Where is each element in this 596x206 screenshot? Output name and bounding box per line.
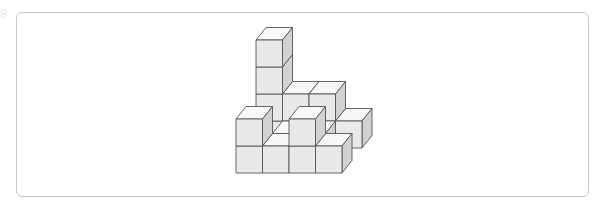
cube-front-face [256,40,283,67]
cube-front-face [289,119,316,146]
cube-front-face [263,146,290,173]
cube-front-face [316,146,343,173]
cube-front-face [236,146,263,173]
cube-front-face [289,146,316,173]
cube-front-face [236,119,263,146]
cube-stack-diagram [0,0,596,206]
cube-front-face [256,67,283,94]
